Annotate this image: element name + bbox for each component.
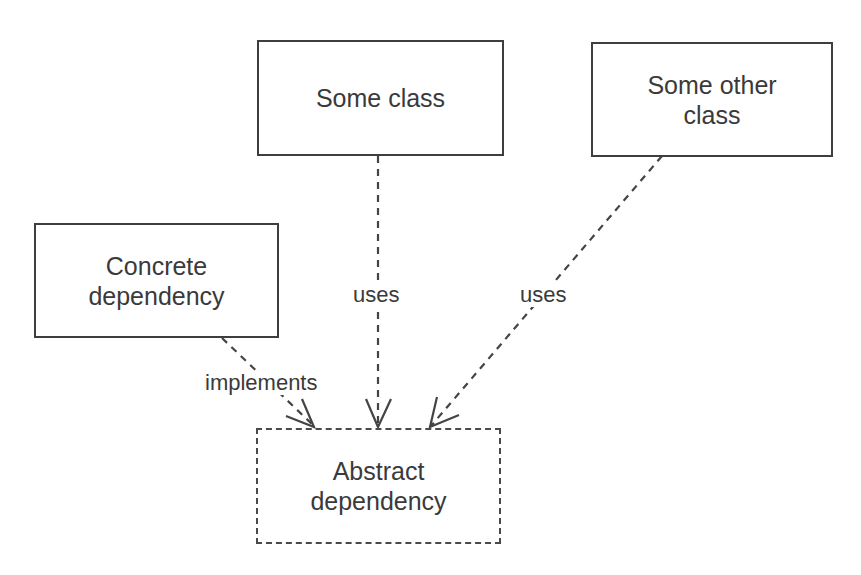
node-label: Some other class: [647, 70, 776, 130]
node-label: Abstract dependency: [310, 456, 446, 516]
node-some-class[interactable]: Some class: [257, 40, 504, 156]
node-abstract-dependency[interactable]: Abstract dependency: [256, 428, 501, 544]
edge-label-implements: implements: [203, 371, 319, 395]
node-label: Some class: [316, 83, 445, 113]
arrowhead-icon: [430, 397, 459, 427]
edge-label-uses: uses: [518, 283, 568, 307]
node-some-other-class[interactable]: Some other class: [591, 42, 833, 157]
edge-label-uses: uses: [351, 283, 401, 307]
node-concrete-dependency[interactable]: Concrete dependency: [34, 223, 279, 338]
node-label: Concrete dependency: [88, 251, 224, 311]
